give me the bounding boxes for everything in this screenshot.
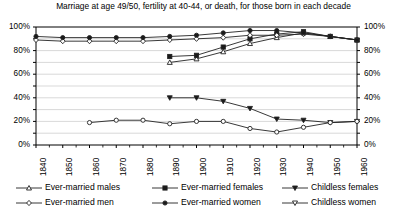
y-tick-right-60: 60% — [364, 70, 396, 78]
triangle-down-open-icon — [282, 198, 308, 208]
x-tick-1920: 1920 — [254, 158, 262, 176]
chart-container: Marriage at age 49/50, fertility at 40-4… — [0, 0, 407, 212]
x-tick-1940: 1940 — [307, 158, 315, 176]
legend-item-childless-females[interactable]: Childless females — [282, 183, 378, 193]
x-axis-labels: 1840185018601870188018901900191019201930… — [0, 148, 407, 182]
legend-item-childless-women[interactable]: Childless women — [282, 198, 376, 208]
legend-label: Childless females — [311, 183, 378, 192]
x-tick-1850: 1850 — [66, 158, 74, 176]
x-tick-1840: 1840 — [40, 158, 48, 176]
chart-title: Marriage at age 49/50, fertility at 40-4… — [0, 1, 407, 12]
plot-area — [0, 22, 407, 148]
y-tick-right-100: 100% — [364, 23, 396, 31]
y-tick-right-80: 80% — [364, 47, 396, 55]
y-tick-left-20: 20% — [0, 117, 30, 125]
legend-label: Ever-married males — [45, 183, 120, 192]
legend-label: Ever-married men — [45, 198, 114, 207]
x-tick-1930: 1930 — [280, 158, 288, 176]
x-tick-1960: 1960 — [361, 158, 369, 176]
x-tick-1870: 1870 — [120, 158, 128, 176]
y-tick-right-40: 40% — [364, 94, 396, 102]
legend-item-ever-married-males[interactable]: Ever-married males — [16, 183, 120, 193]
y-tick-left-100: 100% — [0, 23, 30, 31]
y-tick-right-20: 20% — [364, 117, 396, 125]
legend-label: Ever-married females — [181, 183, 263, 192]
legend-item-ever-married-females[interactable]: Ever-married females — [152, 183, 263, 193]
y-tick-left-60: 60% — [0, 70, 30, 78]
y-tick-left-80: 80% — [0, 47, 30, 55]
y-tick-left-40: 40% — [0, 94, 30, 102]
triangle-down-filled-icon — [282, 183, 308, 193]
legend-row-1: Ever-married malesEver-married femalesCh… — [0, 180, 407, 195]
chart-legend: Ever-married malesEver-married femalesCh… — [0, 180, 407, 212]
x-tick-1890: 1890 — [173, 158, 181, 176]
legend-label: Ever-married women — [181, 198, 261, 207]
x-tick-1910: 1910 — [227, 158, 235, 176]
x-tick-1860: 1860 — [93, 158, 101, 176]
plot-svg — [0, 22, 407, 148]
circle-filled-icon — [152, 198, 178, 208]
series-5 — [87, 118, 359, 134]
legend-item-ever-married-women[interactable]: Ever-married women — [152, 198, 261, 208]
triangle-open-icon — [16, 183, 42, 193]
x-tick-1950: 1950 — [334, 158, 342, 176]
x-tick-1880: 1880 — [147, 158, 155, 176]
legend-item-ever-married-men[interactable]: Ever-married men — [16, 198, 114, 208]
legend-label: Childless women — [311, 198, 376, 207]
diamond-open-icon — [16, 198, 42, 208]
legend-row-2: Ever-married menEver-married womenChildl… — [0, 195, 407, 210]
square-filled-icon — [152, 183, 178, 193]
x-tick-1900: 1900 — [200, 158, 208, 176]
